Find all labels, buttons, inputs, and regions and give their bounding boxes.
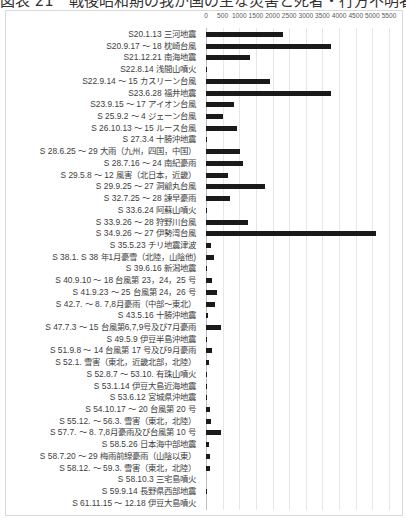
category-label: S22.9.14 ～ 15 カスリーン台風 xyxy=(82,76,200,88)
category-label: S 59.9.14 長野県西部地震 xyxy=(102,486,200,498)
x-tick-label: 4000 xyxy=(332,12,347,19)
bar-row: S20.1.13 三河地震 xyxy=(0,29,406,41)
x-tick-label: 3000 xyxy=(298,12,313,19)
bar-row: S 58.12. ～ 59.3. 雪害（東北，北陸） xyxy=(0,463,406,475)
bar xyxy=(206,372,207,377)
bar-row: S 58.10.3 三宅島噴火 xyxy=(0,474,406,486)
bar xyxy=(206,302,215,307)
bar-row: S 27.3.4 十勝沖地震 xyxy=(0,134,406,146)
category-label: S20.1.13 三河地震 xyxy=(128,29,200,41)
bar xyxy=(206,454,210,459)
bar xyxy=(206,243,211,248)
bar-row: S 52.8.7 ～ 53.10. 有珠山噴火 xyxy=(0,369,406,381)
bar-row: S 53.6.12 宮城県沖地震 xyxy=(0,392,406,404)
bar-row: S 55.12. ～ 56.3. 雪害（東北，北陸） xyxy=(0,416,406,428)
category-label: S 61.11.15 ～ 12.18 伊豆大島噴火 xyxy=(72,498,200,510)
bar xyxy=(206,102,234,107)
category-label: S 58.12. ～ 59.3. 雪害（東北，北陸） xyxy=(59,463,200,475)
category-label: S20.9.17 ～ 18 枕崎台風 xyxy=(106,41,200,53)
category-label: S 58.7.20 ～ 29 梅雨前線豪雨（山陰以東） xyxy=(40,451,200,463)
bar-row: S 29.9.25 ～ 27 洞爺丸台風 xyxy=(0,181,406,193)
bar xyxy=(206,208,207,213)
bar-row: S22.9.14 ～ 15 カスリーン台風 xyxy=(0,76,406,88)
category-label: S 42.7. ～ 8. 7,8月豪雨（中部～東北） xyxy=(56,299,200,311)
category-label: S23.6.28 福井地震 xyxy=(128,88,200,100)
bar xyxy=(206,91,331,96)
bar xyxy=(206,255,214,260)
category-label: S 39.6.16 新潟地震 xyxy=(126,263,200,275)
category-label: S 55.12. ～ 56.3. 雪害（東北，北陸） xyxy=(59,416,200,428)
x-tick-label: 2500 xyxy=(282,12,297,19)
category-label: S 35.5.23 チリ地震津波 xyxy=(110,240,200,252)
category-label: S 34.9.26 ～ 27 伊勢湾台風 xyxy=(96,228,200,240)
bar xyxy=(206,67,207,72)
category-label: S 51.9.8 ～ 14 台風第 17 号及び9月豪雨 xyxy=(50,345,200,357)
category-label: S 27.3.4 十勝沖地震 xyxy=(122,134,200,146)
bar-row: S23.9.15 ～ 17 アイオン台風 xyxy=(0,99,406,111)
bar-row: S 26.10.13 ～ 15 ルース台風 xyxy=(0,123,406,135)
bar-row: S20.9.17 ～ 18 枕崎台風 xyxy=(0,41,406,53)
bar-row: S21.12.21 南海地震 xyxy=(0,52,406,64)
bar-row: S 40.9.10 ～ 18 台風第 23，24，25 号 xyxy=(0,275,406,287)
bar xyxy=(206,137,207,142)
bar-row: S 58.7.20 ～ 29 梅雨前線豪雨（山陰以東） xyxy=(0,451,406,463)
bar xyxy=(206,419,211,424)
bar xyxy=(206,290,217,295)
bar-row: S 52.1. 雪害（東北，近畿北部，北陸） xyxy=(0,357,406,369)
chart-title: 図表 21 戦後昭和期の我が国の主な災害と死者・行方不明者数 xyxy=(0,0,406,8)
bar-row: S 51.9.8 ～ 14 台風第 17 号及び9月豪雨 xyxy=(0,345,406,357)
category-label: S 52.1. 雪害（東北，近畿北部，北陸） xyxy=(55,357,200,369)
bar xyxy=(206,173,228,178)
bar-row: S 33.9.26 ～ 28 狩野川台風 xyxy=(0,217,406,229)
category-label: S 40.9.10 ～ 18 台風第 23，24，25 号 xyxy=(55,275,200,287)
x-tick-label: 0 xyxy=(204,12,208,19)
category-label: S 33.6.24 阿蘇山噴火 xyxy=(118,205,200,217)
bar-row: S 61.11.15 ～ 12.18 伊豆大島噴火 xyxy=(0,498,406,510)
bar xyxy=(206,79,270,84)
bar xyxy=(206,231,376,236)
bar xyxy=(206,114,223,119)
bar xyxy=(206,325,221,330)
bar xyxy=(206,278,212,283)
bar xyxy=(206,266,207,271)
bar-row: S22.8.14 浅間山噴火 xyxy=(0,64,406,76)
bar-row: S 42.7. ～ 8. 7,8月豪雨（中部～東北） xyxy=(0,299,406,311)
bar xyxy=(206,196,230,201)
bar-row: S 29.5.8 ～ 12 風害（北日本，近畿） xyxy=(0,170,406,182)
bar-row: S 28.6.25 ～ 29 大雨（九州，四国，中国） xyxy=(0,146,406,158)
bar xyxy=(206,407,210,412)
bar-row: S 49.5.9 伊豆半島沖地震 xyxy=(0,334,406,346)
bar xyxy=(206,337,207,342)
category-label: S 47.7.3 ～ 15 台風第6,7,9号及び7月豪雨 xyxy=(45,322,200,334)
bar xyxy=(206,220,248,225)
category-label: S 33.9.26 ～ 28 狩野川台風 xyxy=(96,217,200,229)
category-label: S22.8.14 浅間山噴火 xyxy=(120,64,200,76)
category-label: S 43.5.16 十勝沖地震 xyxy=(118,310,200,322)
bar-row: S 39.6.16 新潟地震 xyxy=(0,263,406,275)
x-tick-label: 500 xyxy=(217,12,228,19)
bar xyxy=(206,44,331,49)
bar-row: S 34.9.26 ～ 27 伊勢湾台風 xyxy=(0,228,406,240)
bar-row: S23.6.28 福井地震 xyxy=(0,88,406,100)
x-tick-label: 1000 xyxy=(232,12,247,19)
bar-row: S 57.7. ～ 8. 7,8月豪雨及び台風第 10 号 xyxy=(0,427,406,439)
bar-row: S 33.6.24 阿蘇山噴火 xyxy=(0,205,406,217)
bar-row: S 58.5.26 日本海中部地震 xyxy=(0,439,406,451)
category-label: S 28.7.16 ～ 24 南紀豪雨 xyxy=(104,158,200,170)
bar xyxy=(206,55,250,60)
bar xyxy=(206,184,265,189)
bar xyxy=(206,126,237,131)
category-label: S 29.9.25 ～ 27 洞爺丸台風 xyxy=(96,181,200,193)
x-tick-label: 4500 xyxy=(348,12,363,19)
bar xyxy=(206,348,212,353)
bar-row: S 25.9.2 ～ 4 ジェーン台風 xyxy=(0,111,406,123)
category-label: S 29.5.8 ～ 12 風害（北日本，近畿） xyxy=(61,170,201,182)
category-label: S 53.6.12 宮城県沖地震 xyxy=(110,392,200,404)
category-label: S 49.5.9 伊豆半島沖地震 xyxy=(106,334,200,346)
bar-row: S 38.1. S 38 年1月豪雪（北陸，山陰他) xyxy=(0,252,406,264)
category-label: S 57.7. ～ 8. 7,8月豪雨及び台風第 10 号 xyxy=(50,427,200,439)
bar xyxy=(206,442,209,447)
category-label: S 58.10.3 三宅島噴火 xyxy=(118,474,200,486)
bar xyxy=(206,161,243,166)
category-label: S 41.9.23 ～ 25 台風第 24，26 号 xyxy=(73,287,200,299)
